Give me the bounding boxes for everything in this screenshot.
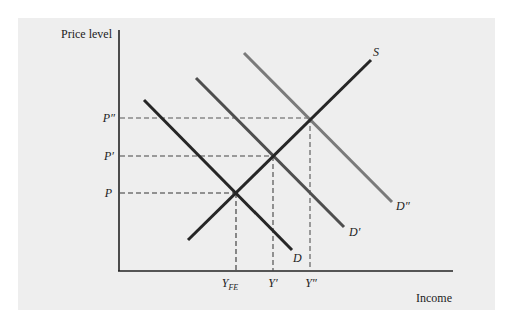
demand-curve-d-double-prime xyxy=(244,53,392,202)
price-label-p: P xyxy=(104,186,113,200)
price-label-p-double-prime: P″ xyxy=(102,111,116,125)
supply-demand-diagram: Price level Income S D D′ D″ P P′ P″ YFE… xyxy=(0,0,512,326)
x-axis-label: Income xyxy=(416,291,452,305)
curve-label-s: S xyxy=(373,45,379,59)
y-axis-label: Price level xyxy=(61,27,113,41)
demand-curve-d xyxy=(144,100,292,250)
income-label-y-prime: Y′ xyxy=(268,276,278,290)
price-label-p-prime: P′ xyxy=(103,149,114,163)
demand-curve-d-prime xyxy=(196,78,344,227)
curve-label-d-prime: D′ xyxy=(348,225,361,239)
curve-label-d: D xyxy=(292,251,302,265)
income-label-y-double-prime: Y″ xyxy=(305,276,318,290)
curve-label-d-double-prime: D″ xyxy=(395,199,411,213)
income-label-y-fe: YFE xyxy=(222,276,239,292)
